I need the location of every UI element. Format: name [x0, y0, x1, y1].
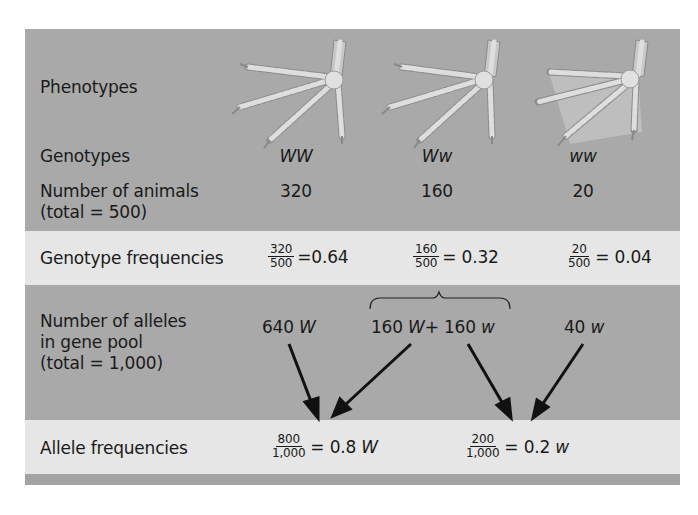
arrow-40w [542, 344, 583, 405]
number-of-alleles-label: Number of alleles [40, 310, 186, 332]
genotype-WW: WW [279, 145, 312, 167]
allele-frequency-W: 800 1,000 = 0.8 W [270, 433, 378, 460]
chicken-foot-icon [232, 40, 346, 148]
genotype-ww: ww [569, 145, 596, 167]
count-Ww: 160 [421, 180, 453, 202]
fraction: 200 1,000 [464, 433, 501, 460]
genotype-frequency-WW: 320 500 = 0.64 [268, 243, 348, 270]
number-of-animals-total: (total = 500) [40, 201, 147, 223]
allele-frequency-w: 200 1,000 = 0.2 w [464, 433, 569, 460]
arrow-head-icon [497, 399, 511, 418]
fraction: 320 500 [268, 243, 294, 270]
fraction: 160 500 [413, 243, 439, 270]
gene-pool-label: in gene pool [40, 331, 143, 353]
allele-arrows [289, 344, 583, 418]
alleles-160W-160w: 160 W+ 160 w [371, 316, 495, 338]
arrow-head-icon [533, 400, 548, 418]
count-ww: 20 [572, 180, 593, 202]
fraction: 20 500 [566, 243, 592, 270]
number-of-animals-label: Number of animals [40, 180, 199, 202]
arrow-160W [345, 344, 411, 405]
phenotypes-label: Phenotypes [40, 76, 138, 98]
grouping-brace [370, 292, 510, 309]
alleles-total-label: (total = 1,000) [40, 352, 163, 374]
genotype-Ww: Ww [422, 145, 452, 167]
alleles-640W: 640 W [262, 316, 316, 338]
fraction: 800 1,000 [270, 433, 307, 460]
alleles-40w: 40 w [564, 316, 604, 338]
genotype-frequency-Ww: 160 500 = 0.32 [413, 243, 499, 270]
count-WW: 320 [280, 180, 312, 202]
arrow-head-icon [305, 398, 318, 418]
allele-frequencies-label: Allele frequencies [40, 437, 188, 459]
chicken-foot-icon [382, 40, 500, 148]
arrow-640W [289, 344, 312, 404]
webbed-foot-icon [538, 40, 648, 146]
genotypes-label: Genotypes [40, 145, 130, 167]
genotype-frequencies-label: Genotype frequencies [40, 247, 223, 269]
arrow-160w [468, 344, 503, 404]
genotype-frequency-ww: 20 500 = 0.04 [566, 243, 652, 270]
